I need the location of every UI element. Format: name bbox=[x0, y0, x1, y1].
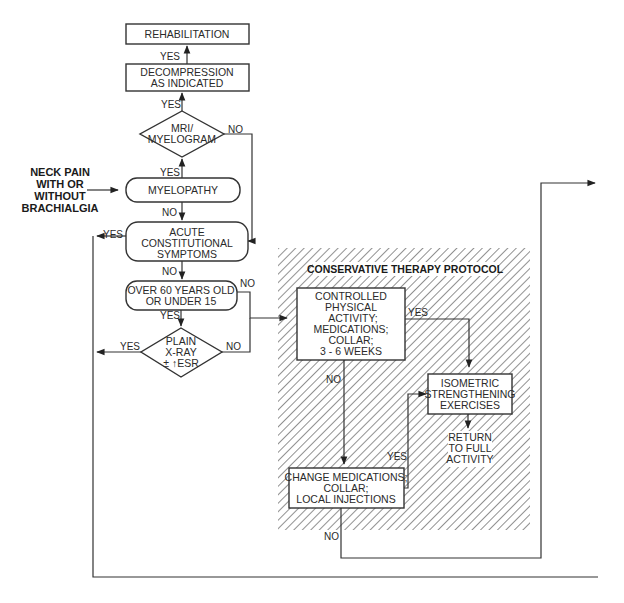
acute-label-3: SYMPTOMS bbox=[157, 248, 217, 260]
myelopathy-label: MYELOPATHY bbox=[148, 184, 218, 196]
mri-label-2: MYELOGRAM bbox=[148, 133, 216, 145]
isometric-label-3: EXERCISES bbox=[440, 399, 500, 411]
no-label: NO bbox=[240, 278, 255, 289]
no-label: NO bbox=[324, 531, 339, 542]
decompression-label-2: AS INDICATED bbox=[151, 77, 224, 89]
entry-label-2: WITH OR bbox=[36, 178, 84, 190]
age-label-2: OR UNDER 15 bbox=[146, 295, 217, 307]
entry-label-4: BRACHIALGIA bbox=[22, 202, 99, 214]
entry-label-1: NECK PAIN bbox=[30, 166, 90, 178]
yes-label: YES bbox=[408, 307, 428, 318]
controlled-label-6: 3 - 6 WEEKS bbox=[320, 345, 382, 357]
flowchart: CONSERVATIVE THERAPY PROTOCOL REHABILITA… bbox=[0, 0, 624, 603]
yes-label: YES bbox=[161, 99, 181, 110]
yes-label: YES bbox=[160, 51, 180, 62]
no-label: NO bbox=[228, 124, 243, 135]
rehabilitation-label: REHABILITATION bbox=[145, 28, 230, 40]
no-label: NO bbox=[162, 266, 177, 277]
yes-label: YES bbox=[120, 341, 140, 352]
protocol-title: CONSERVATIVE THERAPY PROTOCOL bbox=[307, 263, 504, 275]
no-label: NO bbox=[326, 374, 341, 385]
no-label: NO bbox=[226, 341, 241, 352]
yes-label: YES bbox=[160, 167, 180, 178]
yes-label: YES bbox=[103, 229, 123, 240]
change-label-3: LOCAL INJECTIONS bbox=[296, 493, 395, 505]
yes-label: YES bbox=[160, 310, 180, 321]
xray-label-3: ± ↑ESR bbox=[163, 357, 199, 369]
return-label-3: ACTIVITY bbox=[446, 453, 493, 465]
yes-label: YES bbox=[387, 451, 407, 462]
entry-label-3: WITHOUT bbox=[34, 190, 86, 202]
no-label: NO bbox=[162, 207, 177, 218]
